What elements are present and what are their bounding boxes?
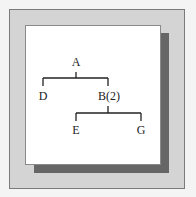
node-e: E bbox=[72, 124, 79, 136]
node-d: D bbox=[39, 90, 48, 102]
node-g: G bbox=[137, 124, 146, 136]
node-b2: B(2) bbox=[98, 90, 120, 102]
node-a: A bbox=[72, 56, 81, 68]
